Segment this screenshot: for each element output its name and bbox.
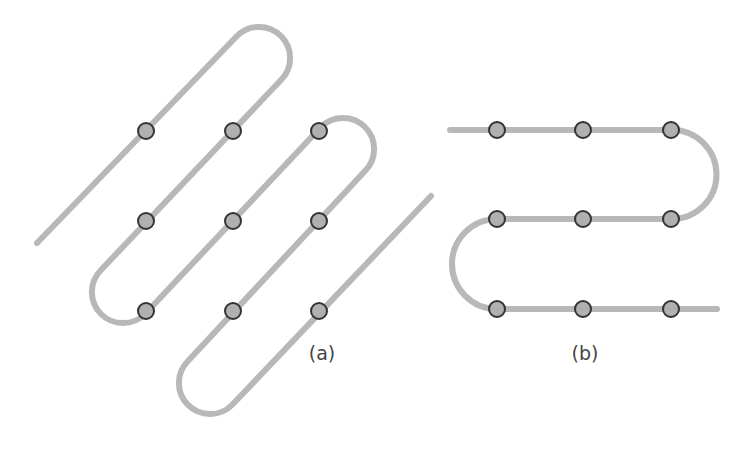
node-a-4: [225, 213, 241, 229]
diagram-a-diagonal-path: [37, 27, 431, 414]
diagram-canvas: (a) (b): [0, 0, 743, 449]
node-b-2: [663, 122, 679, 138]
node-a-0: [138, 123, 154, 139]
node-b-3: [489, 211, 505, 227]
caption-b: (b): [572, 342, 599, 364]
node-b-5: [663, 211, 679, 227]
node-b-0: [489, 122, 505, 138]
node-b-4: [575, 211, 591, 227]
diagram-svg: [0, 0, 743, 449]
diagram-b-serpentine-path: [450, 122, 717, 317]
node-b-1: [575, 122, 591, 138]
node-a-1: [225, 123, 241, 139]
node-b-7: [575, 301, 591, 317]
node-b-8: [663, 301, 679, 317]
caption-a: (a): [309, 342, 335, 364]
node-a-5: [311, 213, 327, 229]
node-a-8: [311, 303, 327, 319]
node-a-3: [138, 213, 154, 229]
node-a-2: [311, 123, 327, 139]
node-a-6: [138, 303, 154, 319]
node-b-6: [489, 301, 505, 317]
node-a-7: [225, 303, 241, 319]
